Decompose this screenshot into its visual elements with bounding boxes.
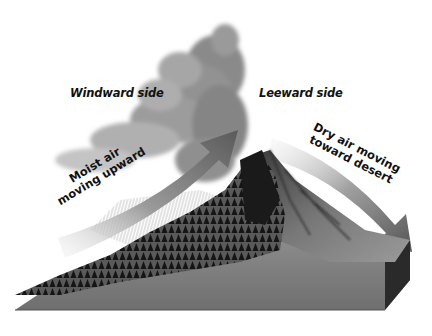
- windward-side-label: Windward side: [70, 86, 164, 100]
- leeward-side-label: Leeward side: [259, 86, 343, 100]
